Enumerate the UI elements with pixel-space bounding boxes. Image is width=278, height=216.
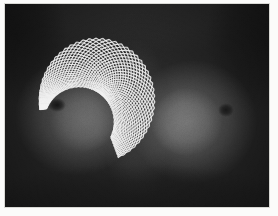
photograph-image bbox=[5, 4, 269, 207]
figure-root bbox=[0, 0, 278, 216]
figure-caption bbox=[5, 207, 269, 216]
photograph-plate bbox=[5, 4, 269, 207]
